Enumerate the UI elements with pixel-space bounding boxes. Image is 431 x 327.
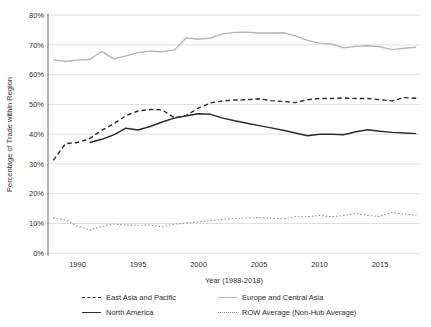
- y-axis-title: Percentage of Trade within Region: [5, 15, 18, 255]
- x-tick-label: 2015: [372, 260, 389, 269]
- y-tick-label: 30%: [29, 160, 44, 169]
- legend-item-north-america: North America: [82, 305, 218, 320]
- legend-item-east-asia-pacific: East Asia and Pacific: [82, 290, 218, 305]
- y-tick-label: 60%: [29, 70, 44, 79]
- legend-item-europe-central-asia: Europe and Central Asia: [218, 290, 356, 305]
- y-tick-label: 20%: [29, 189, 44, 198]
- y-tick-label: 40%: [29, 130, 44, 139]
- legend-label: Europe and Central Asia: [242, 293, 323, 302]
- series-line-europe-central-asia: [53, 32, 416, 61]
- gridlines: [48, 15, 420, 253]
- series-line-east-asia-pacific: [53, 98, 416, 161]
- legend: East Asia and Pacific North America Euro…: [82, 290, 356, 320]
- legend-label: ROW Average (Non-Hub Average): [242, 308, 356, 317]
- y-tick-labels: 0%10%20%30%40%50%60%70%80%: [29, 11, 44, 258]
- series-line-north-america: [90, 114, 417, 143]
- x-tick-label: 2005: [251, 260, 268, 269]
- legend-item-row-average: ROW Average (Non-Hub Average): [218, 305, 356, 320]
- dashed-line-icon: [82, 297, 101, 298]
- legend-column-right: Europe and Central Asia ROW Average (Non…: [218, 290, 356, 320]
- y-tick-label: 10%: [29, 219, 44, 228]
- y-tick-label: 80%: [29, 11, 44, 20]
- x-tick-labels: 199019952000200520102015: [69, 260, 388, 269]
- series-line-row-average: [53, 213, 416, 231]
- gray-line-icon: [218, 297, 237, 298]
- x-tick-label: 1990: [69, 260, 86, 269]
- x-tick-label: 2000: [190, 260, 207, 269]
- y-tick-label: 0%: [33, 249, 44, 258]
- x-axis-title: Year (1988-2018): [134, 276, 334, 285]
- legend-label: East Asia and Pacific: [106, 293, 176, 302]
- chart-plot-area: 0%10%20%30%40%50%60%70%80%19901995200020…: [0, 0, 431, 283]
- y-tick-label: 50%: [29, 100, 44, 109]
- trade-within-region-chart: 0%10%20%30%40%50%60%70%80%19901995200020…: [0, 0, 431, 327]
- x-tick-label: 2010: [311, 260, 328, 269]
- solid-line-icon: [82, 312, 101, 313]
- dotted-line-icon: [218, 312, 237, 313]
- legend-column-left: East Asia and Pacific North America: [82, 290, 218, 320]
- x-tick-label: 1995: [130, 260, 147, 269]
- legend-label: North America: [106, 308, 154, 317]
- y-tick-label: 70%: [29, 41, 44, 50]
